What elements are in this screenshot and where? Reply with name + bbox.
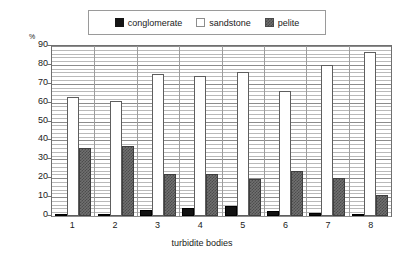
chart-legend: conglomerate sandstone pelite [88, 10, 326, 35]
x-tick-label: 6 [264, 220, 307, 231]
y-tick-label: 90 [22, 40, 48, 49]
bar-sandstone [237, 72, 249, 216]
bar-pelite [206, 174, 218, 217]
bar-conglomerate [352, 214, 364, 216]
y-tick-label: 10 [22, 191, 48, 200]
bar-pelite [333, 178, 345, 216]
conglomerate-swatch-icon [115, 18, 124, 27]
gridline-major [52, 216, 391, 217]
bar-sandstone [110, 101, 122, 216]
bar-sandstone [194, 76, 206, 216]
bar-conglomerate [140, 210, 152, 216]
x-axis-title: turbidite bodies [0, 238, 404, 249]
bar-pelite [122, 146, 134, 216]
bar-group [264, 46, 306, 216]
sandstone-swatch-icon [196, 18, 205, 27]
y-tick-label: 80 [22, 59, 48, 68]
bar-conglomerate [309, 213, 321, 216]
bar-group [222, 46, 264, 216]
y-tick-label: 40 [22, 134, 48, 143]
bar-group [179, 46, 221, 216]
x-tick-label: 2 [94, 220, 137, 231]
legend-label-sandstone: sandstone [209, 18, 251, 28]
bar-sandstone [67, 97, 79, 216]
bar-group [137, 46, 179, 216]
bar-conglomerate [267, 211, 279, 216]
bar-group [94, 46, 136, 216]
y-tick-label: 0 [22, 210, 48, 219]
bar-pelite [376, 195, 388, 216]
bar-pelite [249, 179, 261, 216]
bar-group [52, 46, 94, 216]
bar-group [349, 46, 391, 216]
x-tick-label: 7 [307, 220, 350, 231]
legend-label-pelite: pelite [278, 18, 300, 28]
legend-label-conglomerate: conglomerate [128, 18, 183, 28]
x-tick-label: 4 [179, 220, 222, 231]
pelite-swatch-icon [265, 18, 274, 27]
x-tick-label: 1 [51, 220, 94, 231]
bar-conglomerate [55, 214, 67, 216]
bar-sandstone [321, 65, 333, 216]
y-tick-label: 20 [22, 172, 48, 181]
y-tick-label: 70 [22, 78, 48, 87]
y-tick-label: 30 [22, 153, 48, 162]
bar-sandstone [152, 74, 164, 216]
x-tick-label: 5 [222, 220, 265, 231]
y-tick-label: 50 [22, 116, 48, 125]
x-axis-ticks: 12345678 [51, 220, 392, 231]
bar-sandstone [364, 52, 376, 216]
bar-chart: conglomerate sandstone pelite % 01020304… [0, 0, 404, 259]
plot-area [51, 45, 392, 217]
x-tick-label: 3 [136, 220, 179, 231]
x-tick-label: 8 [349, 220, 392, 231]
bar-conglomerate [98, 214, 110, 216]
bar-conglomerate [182, 208, 194, 216]
bar-pelite [164, 174, 176, 216]
bar-group [306, 46, 348, 216]
bar-pelite [291, 171, 303, 216]
legend-item-conglomerate: conglomerate [108, 18, 190, 28]
bar-pelite [79, 148, 91, 216]
legend-item-sandstone: sandstone [189, 18, 258, 28]
y-tick-label: 60 [22, 97, 48, 106]
legend-item-pelite: pelite [258, 18, 307, 28]
bar-sandstone [279, 91, 291, 216]
bar-groups [52, 46, 391, 216]
bar-conglomerate [225, 206, 237, 216]
